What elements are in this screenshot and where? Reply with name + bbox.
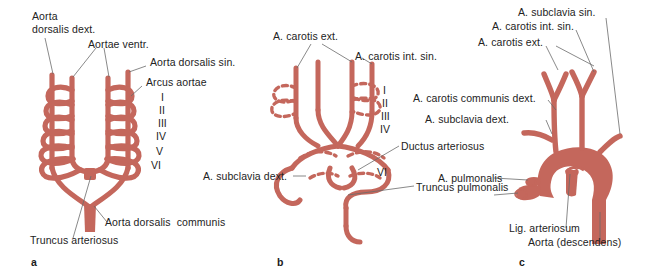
panel-a-trunks: [84, 168, 96, 232]
roman-numeral-a-4: IV: [156, 130, 166, 142]
roman-numeral-a-2: II: [159, 104, 165, 116]
b-arch-VI-left: [328, 168, 340, 188]
leader-c-subclavia-sin: [606, 18, 620, 134]
label-b-a-subclavia-dext: A. subclavia dext.: [203, 170, 287, 183]
c-a-carotis-int-dext: [554, 74, 566, 100]
label-arcus-aortae: Arcus aortae: [146, 76, 207, 89]
label-c-a-subclavia-dext: A. subclavia dext.: [425, 113, 509, 126]
label-b-ductus-arteriosus: Ductus arteriosus: [401, 140, 484, 153]
leader-aorta-dorsalis-dext: [45, 38, 53, 74]
roman-numeral-b-3: III: [381, 110, 390, 122]
roman-numeral-a-1: I: [161, 91, 164, 103]
b-right-ext-stem: [358, 112, 372, 146]
c-a-carotis-int-sin: [582, 72, 594, 96]
c-a-subclavia-sin: [600, 136, 620, 152]
roman-numeral-a-6: VI: [151, 159, 161, 171]
b-left-ext-stem: [296, 118, 318, 146]
label-b-a-carotis-int-sin: A. carotis int. sin.: [355, 50, 437, 63]
roman-numeral-b-2: II: [382, 97, 388, 109]
roman-numeral-a-3: III: [158, 117, 167, 129]
label-truncus-arteriosus: Truncus arteriosus: [30, 234, 118, 247]
leader-b-carotis-ext-a: [297, 44, 311, 68]
label-c-a-subclavia-sin: A. subclavia sin.: [518, 6, 596, 19]
panel-c-branches: [524, 72, 620, 152]
panel-a-vessels: [41, 72, 139, 206]
label-aorta-dorsalis-communis: Aorta dorsalis communis: [105, 216, 225, 229]
b-right-carotid-stem: [338, 112, 352, 146]
c-left-carotis-ext: [572, 72, 582, 96]
leader-aortae-ventr-right: [104, 48, 109, 77]
label-c-lig-arteriosum: Lig. arteriosum: [509, 222, 580, 235]
panel-letter-c: c: [519, 256, 525, 268]
label-aorta-dorsalis-dext: Aorta dorsalis dext.: [32, 10, 95, 35]
roman-numeral-b-4: IV: [380, 123, 390, 135]
label-c-a-pulmonalis: A. pulmonalis: [438, 172, 502, 185]
leader-c-carotis-ext-down: [546, 46, 558, 70]
roman-numeral-a-5: V: [156, 145, 163, 157]
anatomical-figure: Aorta dorsalis dext. Aortae ventr. Aorta…: [0, 0, 667, 274]
b-arch-V-left: [310, 173, 338, 178]
b-arch-VI-right: [344, 168, 355, 188]
label-aorta-dorsalis-sin: Aorta dorsalis sin.: [150, 56, 235, 69]
roman-numeral-b-5: VI: [377, 166, 387, 178]
b-trunk-bend: [346, 226, 360, 242]
label-c-a-carotis-communis-dext: A. carotis communis dext.: [413, 92, 536, 105]
label-aortae-ventr: Aortae ventr.: [88, 38, 149, 51]
label-c-a-carotis-int-sin: A. carotis int. sin.: [492, 20, 574, 33]
leader-aorta-dorsalis-sin: [129, 66, 146, 72]
leader-c-carotis-ext-cross: [556, 46, 594, 66]
panel-letter-a: a: [31, 256, 37, 268]
b-left-carotid-stem: [318, 110, 338, 146]
label-c-a-carotis-ext: A. carotis ext.: [478, 36, 543, 49]
c-a-subclavia-dext: [524, 133, 552, 140]
c-a-carotis-ext: [544, 74, 554, 100]
aorta-dorsalis-communis-trunk: [84, 204, 96, 232]
panel-letter-b: b: [277, 256, 283, 268]
label-b-a-carotis-ext: A. carotis ext.: [273, 30, 338, 43]
label-c-aorta-descendens: Aorta (descendens): [528, 236, 621, 249]
leader-aortae-ventr-left: [73, 48, 96, 77]
roman-numeral-b-1: I: [383, 84, 386, 96]
leader-c-subclavia-dext: [546, 120, 552, 134]
leader-b-carotis-ext-b: [322, 44, 352, 62]
leader-c-carotis-int-sin: [576, 30, 594, 72]
